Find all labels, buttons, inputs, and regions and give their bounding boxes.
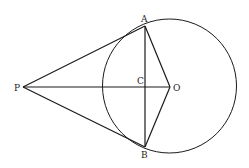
radius-ob <box>145 87 170 147</box>
radius-oa <box>145 26 170 87</box>
label-b: B <box>141 150 148 160</box>
label-o: O <box>173 83 180 93</box>
label-a: A <box>140 14 148 24</box>
geometry-diagram: A B P O C <box>0 0 249 168</box>
tangent-pa <box>23 26 145 87</box>
label-p: P <box>14 83 20 93</box>
label-c: C <box>137 76 144 86</box>
diagram-canvas: A B P O C <box>0 0 249 168</box>
tangent-pb <box>23 87 145 147</box>
